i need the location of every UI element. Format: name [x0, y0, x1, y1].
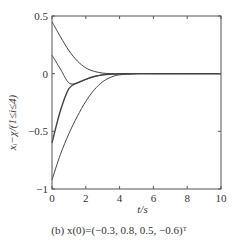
- series-lines: [52, 22, 221, 180]
- x-tick-label: 10: [216, 192, 228, 204]
- line-chart: 0246810−1−0.500.5 t/s xᵢ−χ/(1≤i≤4): [0, 0, 238, 244]
- figure-caption: (b) x(0)=(−0.3, 0.8, 0.5, −0.6)ᵀ: [0, 224, 238, 236]
- x-tick-label: 6: [151, 192, 157, 204]
- x-tick-label: 2: [83, 192, 89, 204]
- plot-frame: [52, 16, 221, 189]
- series-line: [52, 22, 221, 74]
- x-tick-label: 0: [49, 192, 55, 204]
- series-line: [52, 55, 221, 84]
- y-tick-label: 0: [43, 68, 49, 80]
- y-axis-label: xᵢ−χ/(1≤i≤4): [6, 94, 19, 151]
- y-tick-label: −0.5: [28, 125, 48, 137]
- axis-ticks: 0246810−1−0.500.5: [28, 10, 227, 204]
- y-tick-label: 0.5: [34, 10, 48, 22]
- x-axis-label: t/s: [137, 203, 147, 215]
- x-tick-label: 4: [117, 192, 123, 204]
- x-tick-label: 8: [184, 192, 190, 204]
- y-tick-label: −1: [36, 183, 48, 195]
- series-line: [52, 74, 221, 180]
- series-line: [52, 74, 221, 143]
